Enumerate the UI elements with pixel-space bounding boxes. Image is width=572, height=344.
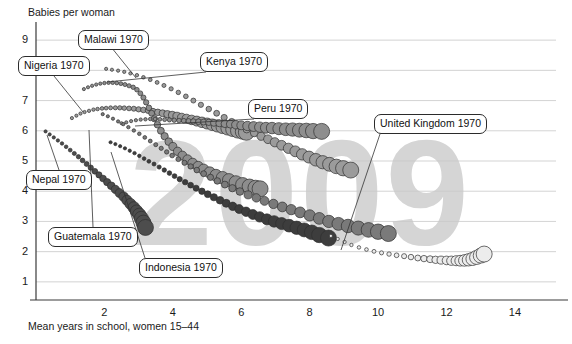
callout-guatemala[interactable]: Guatemala 1970 [48, 227, 138, 247]
chart-root: Babies per woman Mean years in school, w… [0, 0, 572, 344]
callout-nepal[interactable]: Nepal 1970 [26, 170, 92, 190]
y-tick-4: 4 [12, 184, 28, 196]
y-tick-7: 7 [12, 94, 28, 106]
x-tick-10: 10 [368, 306, 388, 318]
callout-kenya[interactable]: Kenya 1970 [200, 52, 268, 72]
x-tick-2: 2 [94, 306, 114, 318]
y-tick-2: 2 [12, 245, 28, 257]
y-tick-9: 9 [12, 33, 28, 45]
x-tick-6: 6 [231, 306, 251, 318]
callout-nigeria[interactable]: Nigeria 1970 [18, 56, 90, 76]
y-tick-5: 5 [12, 154, 28, 166]
callout-peru[interactable]: Peru 1970 [248, 99, 308, 119]
callout-uk[interactable]: United Kingdom 1970 [374, 114, 487, 134]
callout-malawi[interactable]: Malawi 1970 [78, 30, 149, 50]
x-tick-14: 14 [505, 306, 525, 318]
x-tick-4: 4 [163, 306, 183, 318]
x-tick-8: 8 [300, 306, 320, 318]
y-tick-6: 6 [12, 124, 28, 136]
y-tick-1: 1 [12, 275, 28, 287]
x-tick-12: 12 [437, 306, 457, 318]
y-tick-3: 3 [12, 214, 28, 226]
callout-indonesia[interactable]: Indonesia 1970 [139, 258, 223, 278]
